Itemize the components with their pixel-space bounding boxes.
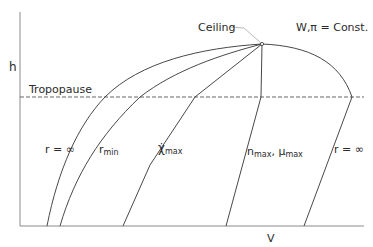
label-r-inf-right: r = ∞ — [334, 144, 364, 155]
curve-chi-max — [123, 44, 262, 226]
condition-label: W,π = Const. — [296, 22, 368, 33]
x-axis-label: V — [267, 233, 275, 244]
label-r-min: rmin — [99, 144, 119, 157]
y-axis-label: h — [9, 61, 17, 73]
label-n-sub: max — [254, 150, 271, 159]
tropopause-label: Tropopause — [29, 84, 92, 95]
curve-r-inf-right — [262, 44, 352, 226]
curve-r-min — [60, 44, 262, 226]
curve-n-max-mu-max — [226, 44, 262, 226]
label-mu-sub: max — [285, 150, 302, 159]
label-r-inf-left: r = ∞ — [45, 144, 75, 155]
label-chi-max: χ̇max — [158, 142, 182, 156]
label-r-min-sub: min — [104, 148, 119, 157]
label-n-main: n — [247, 145, 254, 158]
ceiling-label: Ceiling — [198, 22, 236, 33]
flight-envelope-diagram — [0, 0, 373, 247]
curve-r-inf-left — [47, 44, 262, 226]
label-chi-max-sub: max — [165, 147, 182, 156]
label-chi-max-main: χ̇ — [158, 141, 165, 155]
label-n-max-mu-max: nmax, μmax — [247, 146, 303, 159]
label-mu-main: , μ — [271, 145, 285, 158]
